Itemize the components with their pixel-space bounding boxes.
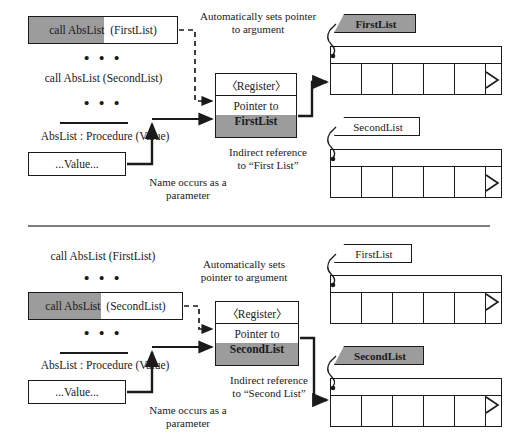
list-cell: [455, 396, 486, 426]
panel-divider: [28, 225, 490, 227]
annotation-auto-sets-line1: Automatically sets pointer: [178, 10, 338, 23]
list-header-bar: [330, 378, 502, 396]
ellipsis-lower: • • •: [84, 95, 122, 112]
annotation-name-occurs-line2: parameter: [123, 189, 253, 202]
value-box: ...Value...: [28, 152, 126, 176]
call-box-text: call AbsList (SecondList): [29, 300, 182, 312]
list-cell: [362, 293, 393, 323]
list-cell: [393, 64, 424, 94]
annotation-indirect-line1: Indirect reference: [208, 146, 328, 159]
value-box-text: ...Value...: [55, 158, 98, 170]
list-cell: [393, 293, 424, 323]
register-pointer-line1: Pointer to: [216, 96, 296, 115]
list-cell: [331, 396, 362, 426]
ellipsis-upper: • • •: [84, 270, 122, 287]
list-cell: [424, 293, 455, 323]
call-prefix: call AbsList: [49, 24, 104, 36]
list-label-secondlist: SecondList: [334, 117, 420, 136]
value-box-text: ...Value...: [55, 386, 98, 398]
list-cell: [331, 167, 362, 197]
list-cell: [362, 64, 393, 94]
list-cell: [362, 396, 393, 426]
annotation-name-occurs: Name occurs as a parameter: [123, 404, 253, 430]
call-prefix: call AbsList: [45, 300, 100, 312]
register-pointer-line2: FirstList: [216, 115, 296, 137]
call-arg: (FirstList): [110, 24, 157, 36]
list-cells: [330, 166, 502, 198]
annotation-auto-sets-line2: to argument: [178, 23, 338, 36]
list-cells: [330, 63, 502, 95]
list-label-secondlist: SecondList: [334, 346, 424, 365]
annotation-indirect-line2: to “Second List”: [206, 387, 332, 400]
panel-bottom: call AbsList (FirstList) • • • call AbsL…: [0, 222, 515, 445]
value-box: ...Value...: [28, 380, 126, 404]
call-box-text: call AbsList (FirstList): [29, 24, 177, 36]
register-header: 〈Register〉: [216, 74, 296, 96]
list-label-firstlist: FirstList: [334, 14, 416, 33]
panel-top: call AbsList (FirstList) • • • call AbsL…: [0, 0, 515, 222]
list-label-firstlist: FirstList: [334, 244, 412, 263]
register-box: 〈Register〉 Pointer to SecondList: [215, 301, 299, 366]
list-cell: [331, 293, 362, 323]
list-cell: [455, 167, 486, 197]
procedure-header: AbsList : Procedure (Value): [30, 359, 180, 373]
list-cell: [362, 167, 393, 197]
list-cell: [393, 396, 424, 426]
separator-rule: [60, 122, 128, 124]
register-header: 〈Register〉: [216, 302, 298, 324]
annotation-name-occurs-line1: Name occurs as a: [123, 404, 253, 417]
separator-rule: [60, 352, 128, 354]
register-box: 〈Register〉 Pointer to FirstList: [215, 73, 297, 138]
annotation-auto-sets: Automatically sets pointer to argument: [178, 10, 338, 36]
list-cell: [424, 396, 455, 426]
annotation-auto-sets-line1: Automatically sets: [168, 258, 320, 271]
list-header-bar: [330, 149, 502, 167]
list-cell-truncated: [486, 396, 500, 426]
list-cell: [393, 167, 424, 197]
list-cell-truncated: [486, 64, 500, 94]
call-plain-firstlist: call AbsList (FirstList): [44, 250, 162, 262]
list-header-bar: [330, 46, 502, 64]
list-cell: [424, 64, 455, 94]
list-cell: [331, 64, 362, 94]
register-pointer-line1: Pointer to: [216, 324, 298, 343]
annotation-name-occurs: Name occurs as a parameter: [123, 176, 253, 202]
annotation-auto-sets-line2: pointer to argument: [168, 271, 320, 284]
annotation-indirect-line2: to “First List”: [208, 159, 328, 172]
ellipsis-lower: • • •: [84, 325, 122, 342]
list-cell: [424, 167, 455, 197]
call-box-secondlist: call AbsList (SecondList): [28, 292, 183, 320]
ellipsis-upper: • • •: [84, 50, 122, 67]
call-arg: (SecondList): [106, 300, 165, 312]
list-cell-truncated: [486, 293, 500, 323]
annotation-indirect: Indirect reference to “Second List”: [206, 374, 332, 400]
list-header-bar: [330, 275, 502, 293]
register-pointer-line2: SecondList: [216, 343, 298, 365]
list-cell: [455, 64, 486, 94]
list-cell: [455, 293, 486, 323]
annotation-indirect-line1: Indirect reference: [206, 374, 332, 387]
list-cell-truncated: [486, 167, 500, 197]
call-box-firstlist: call AbsList (FirstList): [28, 16, 178, 44]
diagram-root: call AbsList (FirstList) • • • call AbsL…: [0, 0, 515, 445]
list-cells: [330, 292, 502, 324]
annotation-name-occurs-line2: parameter: [123, 417, 253, 430]
annotation-name-occurs-line1: Name occurs as a: [123, 176, 253, 189]
procedure-header: AbsList : Procedure (Value): [30, 130, 180, 144]
list-cells: [330, 395, 502, 427]
annotation-indirect: Indirect reference to “First List”: [208, 146, 328, 172]
annotation-auto-sets: Automatically sets pointer to argument: [168, 258, 320, 284]
call-plain-secondlist: call AbsList (SecondList): [41, 72, 166, 84]
